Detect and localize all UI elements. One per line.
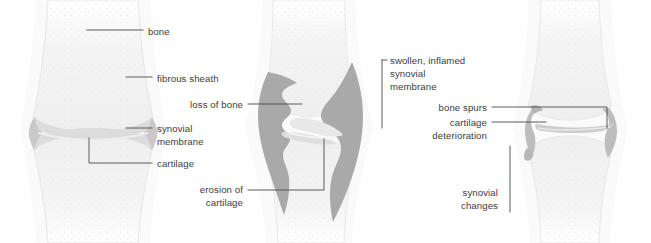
panel-osteoarthritis-joint (512, 0, 628, 243)
label-synovial-membrane: synovial membrane (157, 122, 204, 148)
joint-anatomy-diagram: bone fibrous sheath synovial membrane ca… (0, 0, 651, 243)
panel-rheumatoid-joint (244, 0, 374, 243)
lower-bone-speckle (33, 134, 153, 243)
label-loss-of-bone: loss of bone (143, 98, 243, 111)
joint-illustrations (0, 0, 651, 243)
upper-bone-speckle (33, 0, 153, 131)
label-bone-spurs: bone spurs (407, 101, 487, 114)
label-synovial-changes: synovial changes (428, 186, 498, 212)
label-cartilage: cartilage (157, 157, 194, 170)
label-fibrous-sheath: fibrous sheath (157, 72, 219, 85)
label-erosion-of-cartilage: erosion of cartilage (143, 183, 243, 209)
upper-bone-oa-speckle (528, 0, 612, 120)
leader-swollen-synovium (382, 60, 387, 128)
label-bone: bone (148, 25, 170, 38)
label-cartilage-deterioration: cartilage deterioration (397, 116, 487, 142)
label-swollen-inflamed-synovial-membrane: swollen, inflamed synovial membrane (390, 54, 465, 93)
lower-bone-oa-speckle (528, 136, 612, 243)
